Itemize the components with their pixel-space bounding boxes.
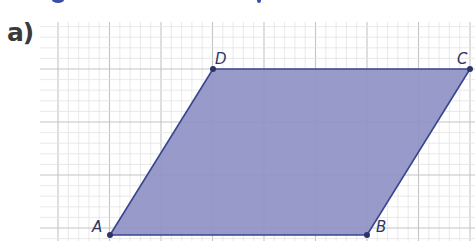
vertex-d-label: D — [215, 50, 227, 68]
vertex-a-label: A — [91, 218, 102, 236]
parallelogram-figure: A B C D — [0, 0, 475, 241]
vertex-c-label: C — [457, 50, 468, 68]
vertex-a-point — [107, 232, 113, 238]
vertex-b-point — [364, 232, 370, 238]
vertex-c-point — [467, 66, 473, 72]
parallelogram-abcd — [110, 69, 470, 235]
vertex-b-label: B — [376, 218, 386, 236]
